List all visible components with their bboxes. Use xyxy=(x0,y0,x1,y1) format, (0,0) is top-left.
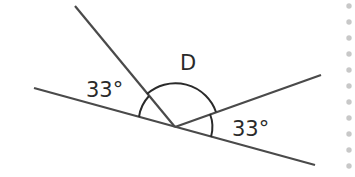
arc-angle-d xyxy=(147,83,216,112)
ray-upper-left xyxy=(75,6,175,127)
angle-diagram: 33° D 33° xyxy=(0,0,355,177)
dotted-margin xyxy=(346,3,351,168)
label-angle-right: 33° xyxy=(232,117,269,141)
label-angle-d: D xyxy=(180,51,196,75)
arc-right-angle xyxy=(210,114,212,137)
label-angle-left: 33° xyxy=(86,78,123,102)
arc-left-angle xyxy=(139,96,149,117)
